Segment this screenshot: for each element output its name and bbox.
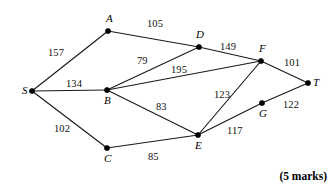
edge-s-b (32, 90, 107, 91)
edge-a-d (108, 31, 199, 47)
network-graph (0, 0, 335, 188)
edge-weight-s-b: 134 (66, 79, 82, 90)
marks-note: (5 marks) (279, 170, 327, 182)
edge-weight-g-t: 122 (283, 100, 299, 111)
node-b (104, 87, 109, 92)
node-label-s: S (22, 85, 28, 96)
node-s (29, 88, 34, 93)
figure-canvas: 157105134791951491018312310285117122SABC… (0, 0, 335, 188)
node-label-t: T (313, 77, 319, 88)
node-d (196, 44, 201, 49)
edge-weight-b-f: 195 (171, 65, 187, 76)
node-label-b: B (104, 95, 111, 106)
node-label-c: C (104, 153, 111, 164)
node-a (105, 28, 110, 33)
node-t (305, 80, 310, 85)
edge-weight-d-f: 149 (220, 42, 236, 53)
node-c (104, 145, 109, 150)
node-f (258, 58, 263, 63)
edge-weight-c-e: 85 (148, 152, 159, 163)
edge-weight-f-t: 101 (284, 58, 300, 69)
edge-weight-a-d: 105 (147, 19, 163, 30)
node-label-d: D (196, 29, 204, 40)
edge-weight-s-a: 157 (48, 48, 64, 59)
node-label-f: F (259, 43, 266, 54)
edge-weight-b-e: 83 (156, 102, 167, 113)
edge-weight-b-d: 79 (137, 56, 148, 67)
edge-s-c (32, 91, 107, 148)
node-label-e: E (195, 140, 202, 151)
edge-c-e (107, 135, 198, 148)
edge-weight-e-g: 117 (227, 126, 243, 137)
edge-b-e (107, 90, 198, 135)
edge-weight-e-f: 123 (214, 90, 230, 101)
edge-weight-s-c: 102 (54, 124, 70, 135)
node-e (195, 132, 200, 137)
node-label-a: A (106, 13, 113, 24)
node-label-g: G (259, 108, 267, 119)
node-g (259, 100, 264, 105)
edges-group (32, 31, 308, 148)
